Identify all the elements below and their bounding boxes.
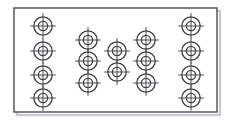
symbol-column-4: [133, 27, 159, 96]
diagram-svg: [0, 0, 231, 122]
diagram-canvas: [0, 0, 231, 122]
symbol-column-2: [75, 27, 101, 96]
